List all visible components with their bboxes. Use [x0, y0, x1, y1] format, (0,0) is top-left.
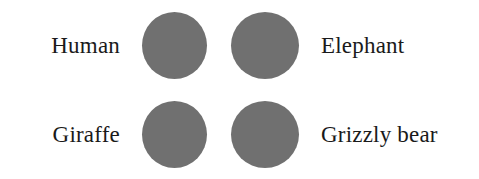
circle-marker-elephant-icon — [231, 12, 299, 79]
figure-grid: Human Elephant Giraffe Grizzly bear — [0, 0, 479, 179]
circle-marker-grizzly-bear-icon — [231, 101, 299, 168]
label-giraffe: Giraffe — [0, 123, 120, 146]
circle-marker-human-cell — [142, 12, 207, 79]
circle-marker-giraffe-cell — [142, 101, 207, 168]
circle-marker-elephant-cell — [231, 12, 299, 79]
label-human: Human — [0, 34, 120, 57]
animal-comparison-figure: Human Elephant Giraffe Grizzly bear — [0, 0, 479, 179]
circle-marker-human-icon — [142, 12, 207, 79]
label-elephant: Elephant — [321, 34, 479, 57]
label-grizzly-bear: Grizzly bear — [321, 123, 479, 146]
circle-marker-grizzly-bear-cell — [231, 101, 299, 168]
circle-marker-giraffe-icon — [142, 101, 207, 168]
